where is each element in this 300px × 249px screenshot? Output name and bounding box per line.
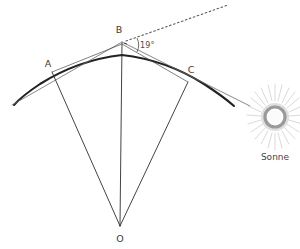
vertex-label-a: A (45, 58, 52, 69)
chord-b-c (122, 44, 188, 82)
radius-o-a (52, 72, 120, 226)
radius-o-b (120, 43, 122, 226)
vertex-label-b: B (116, 24, 123, 35)
radius-o-c (120, 82, 188, 226)
sun-label: Sonne (261, 152, 290, 162)
vertex-label-c: C (188, 64, 195, 75)
tangent-line-c (122, 42, 250, 106)
dotted-sun-ray-b (126, 5, 228, 41)
chord-a-b (52, 44, 122, 72)
angle-label: 19° (140, 41, 155, 50)
tangent-line-a (12, 42, 122, 105)
sun-core-icon (268, 110, 282, 124)
angle-vertex-tick (124, 43, 127, 44)
diagram-canvas: A B C O 19° Sonne (0, 0, 300, 249)
geometry-diagram: A B C O 19° Sonne (0, 0, 300, 249)
vertex-label-o: O (116, 233, 123, 244)
